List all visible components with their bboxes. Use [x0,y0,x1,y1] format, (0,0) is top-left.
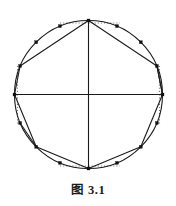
vertex-marker [35,145,38,148]
vertex-marker [19,122,22,125]
figure-container: 图 3.1 [0,0,176,206]
vertex-marker [155,122,158,125]
circle-polygon-diagram [0,0,176,206]
chord-upper-left-to-top [20,21,88,67]
chord-left-to-lower-left-long [15,95,37,147]
vertex-marker [116,25,119,28]
chord-right-to-lower-right [141,95,163,147]
vertex-marker [161,93,164,96]
vertex-marker [87,19,90,22]
vertex-marker [155,65,158,68]
vertex-marker [59,161,62,164]
vertex-marker [139,145,142,148]
chord-bottom-to-lower-left [36,147,88,169]
chord-top-to-upper-right [89,21,157,67]
vertex-marker [116,161,119,164]
vertex-marker [139,41,142,44]
figure-caption: 图 3.1 [0,182,176,198]
vertex-marker [19,65,22,68]
vertex-marker [35,41,38,44]
vertex-marker [13,93,16,96]
vertex-marker [87,167,90,170]
chord-lower-right-to-bottom [89,147,141,169]
vertex-marker [59,25,62,28]
